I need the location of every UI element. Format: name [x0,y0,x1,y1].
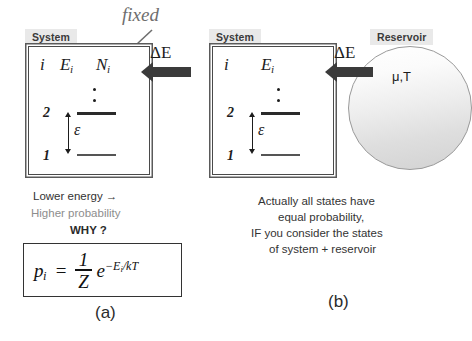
panel-b-caption-line-2: equal probability, [278,209,364,225]
panel-a-ellipsis-dot [93,88,96,91]
panel-a-epsilon-symbol: ε [74,122,80,138]
panel-b-level-label-1: 1 [227,149,234,163]
panel-a-epsilon-arrow-head-up [65,112,71,117]
panel-b-index-symbol: i [224,56,229,73]
reservoir-label: Reservoir [370,29,433,45]
panel-b-level-bar-2 [261,112,300,115]
panel-b-epsilon-arrow-head-down [249,149,255,154]
panel-a-ellipsis-dot [93,99,96,102]
panel-b-energy-flow-arrow-icon [325,62,373,82]
panel-b-ellipsis-dot [277,99,280,102]
panel-a-index-symbol: i [40,56,45,73]
panel-b: System Reservoir μ,T i Ei 2 ε [236,0,472,341]
panel-b-delta-e-label: ΔE [334,44,355,61]
panel-a-level-bar-2 [77,112,116,115]
panel-a-energy-flow-arrow-icon [141,62,191,82]
panel-a-level-bar-1 [77,154,116,156]
panel-b-caption-line-1: Actually all states have [258,193,375,209]
panel-b-level-label-2: 2 [227,106,234,120]
panel-a-epsilon-arrow-head-down [65,149,71,154]
reservoir-variables-label: μ,T [392,69,411,84]
boltzmann-formula: pi = 1 Z e−Ei/kT [34,252,138,293]
panel-a-number-symbol: Ni [96,56,110,73]
panel-b-epsilon-symbol: ε [258,122,264,138]
panel-a-system-label: System [25,29,77,45]
panel-b-level-bar-1 [261,154,300,156]
panel-a-level-label-1: 1 [43,149,50,163]
panel-b-epsilon-arrow-head-up [249,112,255,117]
panel-b-epsilon-arrow-shaft [252,116,253,150]
panel-a-level-label-2: 2 [43,106,50,120]
panel-a-subfigure-label: (a) [95,303,116,323]
panel-a-energy-symbol: Ei [60,56,74,73]
panel-a-delta-e-label: ΔE [150,44,171,61]
panel-a-epsilon-arrow-shaft [68,116,69,150]
panel-b-system-label: System [209,29,261,45]
panel-b-subfigure-label: (b) [328,292,349,312]
panel-b-caption-line-3: IF you consider the states [251,225,383,241]
panel-a-caption-line-2: Higher probability [31,205,121,221]
panel-a-caption-line-1: Lower energy → [33,188,117,204]
fixed-annotation-label: fixed [122,4,159,26]
panel-b-ellipsis-dot [277,88,280,91]
panel-b-energy-symbol: Ei [261,56,275,73]
thermodynamics-figure: fixed System i Ei Ni 2 [0,0,472,341]
panel-a: fixed System i Ei Ni 2 [0,0,236,341]
panel-b-caption-line-4: of system + reservoir [269,241,376,257]
panel-a-caption-line-3: WHY ? [70,222,107,238]
